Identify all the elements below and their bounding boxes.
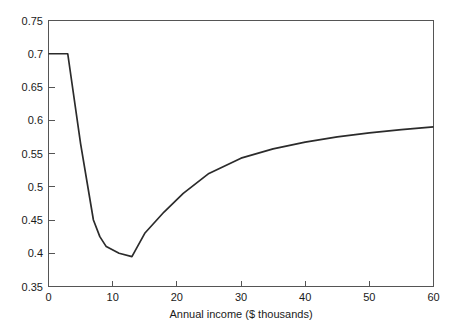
y-axis-ticks bbox=[49, 21, 55, 287]
y-tick-labels: 0.75 0.7 0.65 0.6 0.55 0.5 0.45 0.4 0.35 bbox=[22, 15, 43, 293]
y-tick-label-5: 0.5 bbox=[28, 181, 43, 193]
x-axis-title: Annual income ($ thousands) bbox=[169, 308, 312, 320]
y-tick-label-1: 0.7 bbox=[28, 48, 43, 60]
x-tick-label-1: 10 bbox=[107, 291, 119, 303]
x-tick-label-5: 50 bbox=[363, 291, 375, 303]
x-tick-label-3: 30 bbox=[235, 291, 247, 303]
y-tick-label-2: 0.65 bbox=[22, 81, 43, 93]
data-line-curve bbox=[49, 54, 434, 257]
x-tick-labels: 0 10 20 30 40 50 60 bbox=[45, 291, 439, 303]
y-tick-label-4: 0.55 bbox=[22, 148, 43, 160]
x-tick-label-0: 0 bbox=[45, 291, 51, 303]
y-tick-label-3: 0.6 bbox=[28, 114, 43, 126]
x-tick-label-4: 40 bbox=[299, 291, 311, 303]
x-tick-label-2: 20 bbox=[171, 291, 183, 303]
y-tick-label-7: 0.4 bbox=[28, 247, 43, 259]
y-tick-label-6: 0.45 bbox=[22, 214, 43, 226]
line-chart: 0.75 0.7 0.65 0.6 0.55 0.5 0.45 0.4 0.35… bbox=[0, 0, 454, 329]
y-tick-label-8: 0.35 bbox=[22, 281, 43, 293]
y-tick-label-0: 0.75 bbox=[22, 15, 43, 27]
x-axis-ticks bbox=[49, 281, 434, 287]
x-tick-label-6: 60 bbox=[427, 291, 439, 303]
chart-figure: 0.75 0.7 0.65 0.6 0.55 0.5 0.45 0.4 0.35… bbox=[0, 0, 454, 329]
